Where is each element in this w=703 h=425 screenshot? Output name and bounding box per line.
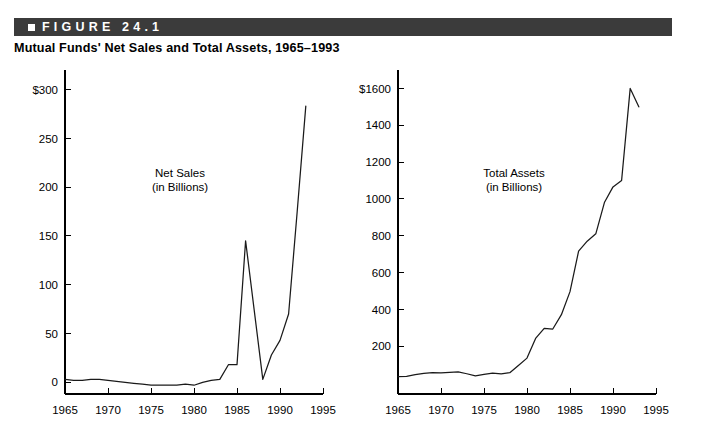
x-tick-label: 1970 bbox=[95, 404, 121, 416]
y-tick-label: $1600 bbox=[359, 83, 391, 95]
series-annotation-line: (in Billions) bbox=[486, 181, 542, 193]
y-tick-label: 1400 bbox=[365, 119, 391, 131]
series-annotation-line: Total Assets bbox=[483, 167, 545, 179]
x-tick-label: 1965 bbox=[385, 404, 411, 416]
y-tick-label: 0 bbox=[52, 376, 58, 388]
y-tick-label: 100 bbox=[39, 279, 58, 291]
y-tick-label: 50 bbox=[45, 328, 58, 340]
x-tick-label: 1995 bbox=[310, 404, 336, 416]
series-annotation-line: Net Sales bbox=[155, 167, 205, 179]
series-line-total-assets bbox=[398, 88, 639, 376]
y-tick-label: 150 bbox=[39, 230, 58, 242]
x-tick-label: 1980 bbox=[181, 404, 207, 416]
y-tick-label: 200 bbox=[372, 340, 391, 352]
x-tick-label: 1990 bbox=[600, 404, 626, 416]
x-tick-label: 1990 bbox=[267, 404, 293, 416]
figure-number-label: FIGURE 24.1 bbox=[42, 21, 163, 34]
y-tick-label: 1000 bbox=[365, 193, 391, 205]
page-title: Mutual Funds' Net Sales and Total Assets… bbox=[14, 41, 340, 55]
chart-panel-total-assets: 200400600800100012001400$160019651970197… bbox=[336, 60, 687, 425]
x-tick-label: 1970 bbox=[428, 404, 454, 416]
figure-banner: FIGURE 24.1 bbox=[14, 18, 672, 36]
y-tick-label: 800 bbox=[372, 230, 391, 242]
x-tick-label: 1980 bbox=[514, 404, 540, 416]
square-bullet-icon bbox=[28, 24, 35, 31]
x-tick-label: 1975 bbox=[471, 404, 497, 416]
y-tick-label: 1200 bbox=[365, 156, 391, 168]
x-tick-label: 1965 bbox=[52, 404, 78, 416]
y-tick-label: 600 bbox=[372, 267, 391, 279]
y-tick-label: 200 bbox=[39, 181, 58, 193]
total-assets-line-chart: 200400600800100012001400$160019651970197… bbox=[336, 60, 687, 425]
net-sales-line-chart: 050100150200250$300196519701975198019851… bbox=[0, 60, 351, 425]
charts-container: 050100150200250$300196519701975198019851… bbox=[0, 60, 703, 425]
x-tick-label: 1975 bbox=[138, 404, 164, 416]
chart-panel-net-sales: 050100150200250$300196519701975198019851… bbox=[0, 60, 351, 425]
series-annotation-line: (in Billions) bbox=[152, 181, 208, 193]
series-line-net-sales bbox=[65, 106, 306, 385]
x-tick-label: 1985 bbox=[557, 404, 583, 416]
y-tick-label: $300 bbox=[32, 84, 58, 96]
y-tick-label: 250 bbox=[39, 133, 58, 145]
x-tick-label: 1985 bbox=[224, 404, 250, 416]
y-tick-label: 400 bbox=[372, 304, 391, 316]
x-tick-label: 1995 bbox=[643, 404, 669, 416]
